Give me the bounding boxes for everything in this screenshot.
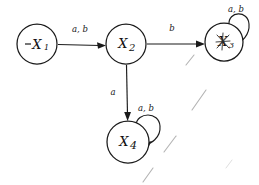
state-node-x3-subscript: 3	[229, 41, 234, 50]
transition-label-x1-x2: a, b	[72, 24, 88, 34]
state-node-x2-subscript: 2	[128, 42, 135, 53]
state-node-x1-subscript: 1	[44, 43, 49, 52]
transition-x2-to-x3	[147, 41, 205, 48]
self-loop-label-x3: a, b	[228, 4, 244, 14]
stray-mark	[164, 136, 176, 152]
automaton-diagram-canvas: X 1 X 2 X 3 X 4 a, b	[0, 0, 259, 185]
transition-x2-to-x3-arrowhead	[196, 41, 205, 48]
transition-x2-to-x4-arrowhead	[124, 112, 131, 121]
transition-label-x2-x4: a	[110, 87, 115, 97]
transition-x1-to-x2	[58, 42, 106, 49]
state-node-x4-subscript: 4	[129, 139, 137, 152]
state-node-x4[interactable]: X 4	[107, 121, 149, 163]
stray-mark	[226, 160, 232, 168]
state-node-x1[interactable]: X 1	[17, 24, 57, 64]
self-loop-label-x4: a, b	[138, 103, 154, 113]
transition-label-x2-x3: b	[169, 23, 174, 33]
state-node-x2[interactable]: X 2	[106, 24, 146, 64]
state-node-x4-label: X	[118, 134, 129, 149]
transition-x1-to-x2-arrowhead	[97, 42, 106, 49]
state-node-x1-label: X	[31, 37, 42, 52]
state-node-x3[interactable]: X 3	[205, 23, 243, 61]
stray-mark	[192, 90, 206, 110]
transition-x2-to-x4-line	[127, 65, 128, 115]
transition-x1-to-x2-line	[58, 45, 100, 46]
state-node-x2-label: X	[117, 36, 128, 51]
stray-mark	[143, 168, 153, 182]
transition-x2-to-x4	[124, 65, 131, 121]
stray-mark	[186, 55, 194, 65]
